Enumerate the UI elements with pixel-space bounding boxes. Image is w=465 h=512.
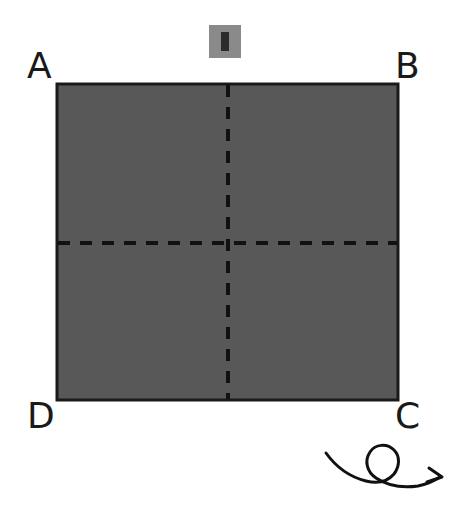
rotation-arrow-layer [0, 0, 465, 512]
looping-rotation-arrow-icon [326, 445, 442, 486]
figure-canvas: A B C D [0, 0, 465, 512]
